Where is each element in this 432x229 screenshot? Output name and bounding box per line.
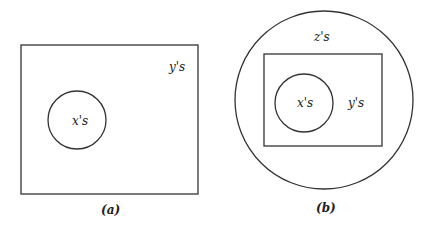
label-x: x's (297, 96, 313, 110)
set-y-rectangle (264, 54, 382, 146)
caption-a: (a) (101, 203, 120, 217)
label-y: y's (347, 96, 364, 110)
label-z: z's (313, 30, 330, 44)
diagram-a: y's x's (a) (21, 45, 198, 217)
label-x: x's (72, 114, 88, 128)
venn-diagrams: y's x's (a) z's x's y's (b) (0, 0, 432, 229)
diagram-b: z's x's y's (b) (235, 11, 413, 215)
caption-b: (b) (316, 201, 336, 215)
label-y: y's (168, 60, 185, 74)
